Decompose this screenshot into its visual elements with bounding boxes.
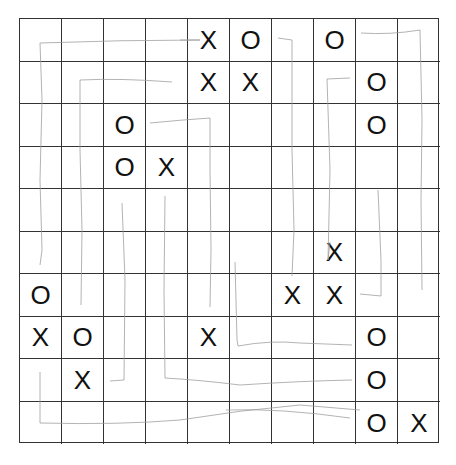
board-cell-r6-c6[interactable]: X	[272, 274, 314, 317]
board-cell-r3-c4[interactable]	[188, 147, 230, 190]
board-cell-r1-c2[interactable]	[104, 62, 146, 105]
board-cell-r7-c8[interactable]: O	[356, 317, 398, 360]
board-cell-r9-c7[interactable]	[314, 402, 356, 445]
board-cell-r1-c7[interactable]	[314, 62, 356, 105]
board-cell-r5-c0[interactable]	[20, 232, 62, 275]
board-cell-r7-c3[interactable]	[146, 317, 188, 360]
board-cell-r3-c0[interactable]	[20, 147, 62, 190]
board-cell-r5-c1[interactable]	[62, 232, 104, 275]
board-cell-r4-c1[interactable]	[62, 189, 104, 232]
board-cell-r9-c6[interactable]	[272, 402, 314, 445]
board-cell-r4-c4[interactable]	[188, 189, 230, 232]
board-cell-r4-c9[interactable]	[398, 189, 440, 232]
board-cell-r1-c6[interactable]	[272, 62, 314, 105]
board-cell-r3-c5[interactable]	[230, 147, 272, 190]
board-cell-r7-c4[interactable]: X	[188, 317, 230, 360]
board-cell-r5-c3[interactable]	[146, 232, 188, 275]
board-cell-r3-c6[interactable]	[272, 147, 314, 190]
board-cell-r8-c3[interactable]	[146, 359, 188, 402]
board-cell-r7-c9[interactable]	[398, 317, 440, 360]
board-cell-r0-c6[interactable]	[272, 19, 314, 62]
board-cell-r0-c1[interactable]	[62, 19, 104, 62]
board-cell-r3-c9[interactable]	[398, 147, 440, 190]
board-cell-r9-c2[interactable]	[104, 402, 146, 445]
board-cell-r1-c1[interactable]	[62, 62, 104, 105]
board-cell-r1-c8[interactable]: O	[356, 62, 398, 105]
board-cell-r4-c0[interactable]	[20, 189, 62, 232]
board-cell-r0-c2[interactable]	[104, 19, 146, 62]
board-cell-r7-c0[interactable]: X	[20, 317, 62, 360]
board-cell-r8-c7[interactable]	[314, 359, 356, 402]
board-cell-r3-c3[interactable]: X	[146, 147, 188, 190]
board-cell-r8-c8[interactable]: O	[356, 359, 398, 402]
board-cell-r2-c0[interactable]	[20, 104, 62, 147]
board-cell-r6-c3[interactable]	[146, 274, 188, 317]
board-cell-r5-c8[interactable]	[356, 232, 398, 275]
board-cell-r2-c6[interactable]	[272, 104, 314, 147]
board-cell-r4-c7[interactable]	[314, 189, 356, 232]
board-cell-r2-c5[interactable]	[230, 104, 272, 147]
board-cell-r8-c5[interactable]	[230, 359, 272, 402]
board-cell-r7-c2[interactable]	[104, 317, 146, 360]
board-cell-r6-c8[interactable]	[356, 274, 398, 317]
board-cell-r4-c3[interactable]	[146, 189, 188, 232]
board-cell-r2-c9[interactable]	[398, 104, 440, 147]
board-cell-r6-c9[interactable]	[398, 274, 440, 317]
board-cell-r7-c5[interactable]	[230, 317, 272, 360]
board-cell-r4-c6[interactable]	[272, 189, 314, 232]
board-cell-r0-c9[interactable]	[398, 19, 440, 62]
board-cell-r6-c7[interactable]: X	[314, 274, 356, 317]
board-cell-r5-c2[interactable]	[104, 232, 146, 275]
board-cell-r9-c5[interactable]	[230, 402, 272, 445]
board-cell-r9-c0[interactable]	[20, 402, 62, 445]
board-cell-r8-c6[interactable]	[272, 359, 314, 402]
board-cell-r2-c8[interactable]: O	[356, 104, 398, 147]
board-cell-r5-c4[interactable]	[188, 232, 230, 275]
board-cell-r2-c4[interactable]	[188, 104, 230, 147]
board-cell-r5-c6[interactable]	[272, 232, 314, 275]
board-cell-r3-c7[interactable]	[314, 147, 356, 190]
board-cell-r2-c1[interactable]	[62, 104, 104, 147]
board-cell-r5-c5[interactable]	[230, 232, 272, 275]
board-cell-r0-c3[interactable]	[146, 19, 188, 62]
board-cell-r6-c0[interactable]: O	[20, 274, 62, 317]
board-cell-r3-c8[interactable]	[356, 147, 398, 190]
board-cell-r7-c6[interactable]	[272, 317, 314, 360]
board-cell-r7-c7[interactable]	[314, 317, 356, 360]
board-cell-r9-c9[interactable]: X	[398, 402, 440, 445]
board-cell-r6-c2[interactable]	[104, 274, 146, 317]
board-cell-r1-c4[interactable]: X	[188, 62, 230, 105]
board-cell-r5-c9[interactable]	[398, 232, 440, 275]
board-cell-r4-c8[interactable]	[356, 189, 398, 232]
board-cell-r9-c4[interactable]	[188, 402, 230, 445]
board-cell-r4-c2[interactable]	[104, 189, 146, 232]
board-cell-r3-c2[interactable]: O	[104, 147, 146, 190]
board-cell-r0-c7[interactable]: O	[314, 19, 356, 62]
board-cell-r3-c1[interactable]	[62, 147, 104, 190]
board-cell-r9-c1[interactable]	[62, 402, 104, 445]
board-cell-r1-c0[interactable]	[20, 62, 62, 105]
board-cell-r2-c2[interactable]: O	[104, 104, 146, 147]
board-cell-r9-c8[interactable]: O	[356, 402, 398, 445]
board-cell-r0-c4[interactable]: X	[188, 19, 230, 62]
board-cell-r8-c2[interactable]	[104, 359, 146, 402]
board-cell-r5-c7[interactable]: X	[314, 232, 356, 275]
board-cell-r8-c1[interactable]: X	[62, 359, 104, 402]
board-cell-r4-c5[interactable]	[230, 189, 272, 232]
board-cell-r6-c5[interactable]	[230, 274, 272, 317]
board-cell-r9-c3[interactable]	[146, 402, 188, 445]
board-cell-r7-c1[interactable]: O	[62, 317, 104, 360]
board-cell-r1-c9[interactable]	[398, 62, 440, 105]
board-cell-r6-c1[interactable]	[62, 274, 104, 317]
board-cell-r0-c8[interactable]	[356, 19, 398, 62]
board-cell-r1-c5[interactable]: X	[230, 62, 272, 105]
board-cell-r2-c3[interactable]	[146, 104, 188, 147]
board-cell-r0-c0[interactable]	[20, 19, 62, 62]
board-cell-r1-c3[interactable]	[146, 62, 188, 105]
board-cell-r2-c7[interactable]	[314, 104, 356, 147]
board-cell-r8-c9[interactable]	[398, 359, 440, 402]
board-cell-r8-c0[interactable]	[20, 359, 62, 402]
board-cell-r6-c4[interactable]	[188, 274, 230, 317]
board-cell-r0-c5[interactable]: O	[230, 19, 272, 62]
board-cell-r8-c4[interactable]	[188, 359, 230, 402]
